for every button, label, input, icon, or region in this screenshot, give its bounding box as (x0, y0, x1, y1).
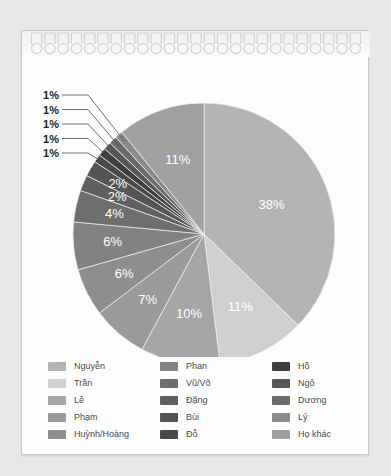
legend-item-nguyen[interactable]: Nguyễn (48, 361, 160, 372)
slice-value-label: 38% (259, 197, 285, 212)
legend-label-phan: Phan (186, 361, 207, 372)
legend-item-le[interactable]: Lê (48, 395, 160, 406)
callout-leader-line (62, 95, 125, 141)
callout-value-label: 1% (43, 104, 59, 116)
legend-item-bui[interactable]: Bùi (160, 412, 272, 423)
legend-item-duong[interactable]: Dương (272, 395, 364, 406)
callout-value-label: 1% (43, 133, 59, 145)
legend-item-dang[interactable]: Đặng (160, 395, 272, 406)
legend-label-tran: Trần (74, 378, 92, 389)
legend-swatch-do (160, 430, 178, 439)
legend-label-vu-vo: Vũ/Võ (186, 378, 211, 389)
slice-value-label: 7% (138, 292, 157, 307)
legend-item-huynh-hoang[interactable]: Huỳnh/Hoàng (48, 429, 160, 440)
callout-value-label: 1% (43, 118, 59, 130)
callout-value-labels: 1%1%1%1%1% (43, 89, 59, 159)
spiral-binding-icon (22, 31, 370, 57)
legend-swatch-ho (272, 362, 290, 371)
legend-label-bui: Bùi (186, 412, 199, 423)
legend-item-ngo[interactable]: Ngô (272, 378, 364, 389)
legend-label-ho-khac: Họ khác (298, 429, 331, 440)
slice-value-label: 6% (115, 266, 134, 281)
legend-swatch-ly (272, 413, 290, 422)
legend-label-dang: Đặng (186, 395, 208, 406)
pie-chart-area: 38%11%10%7%6%6%4%2%2%11% 1%1%1%1%1% (22, 57, 368, 357)
spiral-rings-svg (22, 31, 370, 57)
legend-swatch-phan (160, 362, 178, 371)
legend-item-pham[interactable]: Phạm (48, 412, 160, 423)
legend-label-do: Đỗ (186, 429, 198, 440)
callout-value-label: 1% (43, 89, 59, 101)
legend-item-tran[interactable]: Trần (48, 378, 160, 389)
slice-value-label: 6% (103, 234, 122, 249)
legend-swatch-duong (272, 396, 290, 405)
notepad-card: 38%11%10%7%6%6%4%2%2%11% 1%1%1%1%1% Nguy… (21, 30, 369, 455)
legend-item-ho-khac[interactable]: Họ khác (272, 429, 364, 440)
legend-label-ly: Lý (298, 412, 308, 423)
legend-swatch-tran (48, 379, 66, 388)
legend-item-ho[interactable]: Hồ (272, 361, 364, 372)
legend-label-le: Lê (74, 395, 84, 406)
legend-swatch-ngo (272, 379, 290, 388)
legend-label-nguyen: Nguyễn (74, 361, 105, 372)
legend-swatch-pham (48, 413, 66, 422)
slice-value-label: 4% (105, 206, 124, 221)
legend-item-do[interactable]: Đỗ (160, 429, 272, 440)
legend-swatch-huynh-hoang (48, 430, 66, 439)
slice-value-label: 10% (176, 306, 202, 321)
legend-label-ngo: Ngô (298, 378, 315, 389)
slice-value-label: 2% (108, 189, 127, 204)
legend-item-vu-vo[interactable]: Vũ/Võ (160, 378, 272, 389)
legend-item-phan[interactable]: Phan (160, 361, 272, 372)
legend-swatch-nguyen (48, 362, 66, 371)
legend-swatch-bui (160, 413, 178, 422)
legend-item-ly[interactable]: Lý (272, 412, 364, 423)
legend-label-ho: Hồ (298, 361, 310, 372)
slice-value-label: 11% (165, 152, 190, 167)
legend-swatch-le (48, 396, 66, 405)
legend-swatch-dang (160, 396, 178, 405)
pie-slices[interactable] (73, 103, 335, 357)
slice-value-label: 11% (228, 299, 253, 314)
legend-label-pham: Phạm (74, 412, 98, 423)
chart-legend: Nguyễn Phan Hồ Trần Vũ/Võ Ngô Lê Đặng (48, 361, 348, 440)
legend-label-huynh-hoang: Huỳnh/Hoàng (74, 429, 129, 440)
legend-swatch-ho-khac (272, 430, 290, 439)
legend-swatch-vu-vo (160, 379, 178, 388)
callout-value-label: 1% (43, 147, 59, 159)
pie-chart-svg[interactable]: 38%11%10%7%6%6%4%2%2%11% 1%1%1%1%1% (22, 57, 368, 357)
slice-value-label: 2% (108, 176, 127, 191)
legend-label-duong: Dương (298, 395, 326, 406)
